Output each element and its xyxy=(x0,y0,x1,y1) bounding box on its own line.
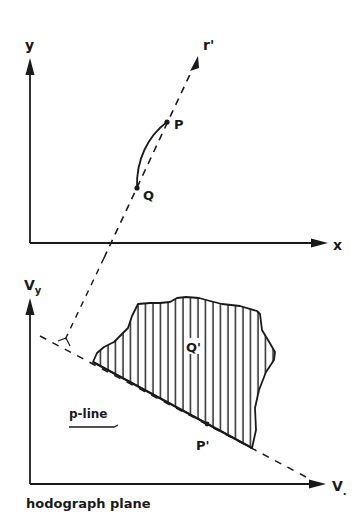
y-axis-arrow-icon xyxy=(26,58,35,75)
point-p-prime-label: P' xyxy=(196,438,210,453)
p-line-label-underline xyxy=(69,425,118,427)
trajectory-curve xyxy=(137,122,167,188)
point-q xyxy=(134,185,139,190)
vy-axis-label: Vy xyxy=(24,277,42,296)
point-p xyxy=(164,119,169,124)
hodograph-plane-caption: hodograph plane xyxy=(26,496,151,511)
vx-axis-label: V. xyxy=(332,478,347,497)
x-axis-label: x xyxy=(333,237,342,253)
vy-axis-arrow-icon xyxy=(26,298,35,315)
region-q-prime-label: Q' xyxy=(186,340,201,355)
r-prime-arrow-icon xyxy=(190,56,199,71)
r-prime-ray xyxy=(104,70,192,258)
point-p-label: P xyxy=(174,117,184,132)
region-q-prime xyxy=(93,297,275,448)
x-axis-arrow-icon xyxy=(311,239,328,248)
r-prime-extension xyxy=(63,258,104,344)
point-q-label: Q xyxy=(143,188,154,203)
r-prime-label: r' xyxy=(203,37,214,53)
p-line-label: p-line xyxy=(69,407,107,421)
right-angle-icon xyxy=(58,338,70,346)
y-axis-label: y xyxy=(25,37,34,53)
vx-axis-arrow-icon xyxy=(309,480,326,489)
bottom-panel: Vy V. Q' P' p-line hodograph plane xyxy=(24,258,347,511)
top-panel: y x r' P Q xyxy=(25,37,342,258)
hodograph-diagram: y x r' P Q Vy V. xyxy=(0,0,363,530)
point-p-prime xyxy=(205,422,210,427)
